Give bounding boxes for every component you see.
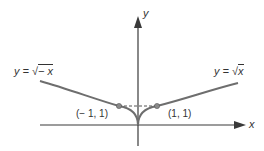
x-axis-arrow-icon (234, 121, 246, 129)
diagram: y x y = √− x y = √x (− 1, 1) (1, 1) (0, 0, 264, 151)
point-neg1-1 (116, 103, 121, 108)
right-curve-label-radicand: x (238, 64, 244, 77)
y-axis-label: y (143, 7, 149, 19)
x-axis-label: x (249, 118, 255, 130)
left-curve-label-lhs: y = (14, 65, 32, 77)
y-axis-arrow-icon (134, 16, 142, 28)
left-curve-label: y = √− x (14, 65, 53, 77)
point-label-neg1-1: (− 1, 1) (76, 108, 108, 119)
right-curve-label: y = √x (214, 65, 244, 77)
left-curve-label-radicand: − x (38, 64, 53, 77)
right-curve-label-lhs: y = (214, 65, 232, 77)
point-label-1-1: (1, 1) (168, 108, 191, 119)
point-1-1 (154, 103, 159, 108)
